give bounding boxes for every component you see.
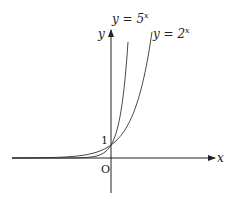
- x-axis-label: x: [217, 151, 224, 165]
- origin-label: O: [101, 163, 110, 176]
- intercept-label: 1: [101, 134, 108, 147]
- curve-2x: [12, 32, 152, 158]
- svg-text:y = 5x: y = 5x: [111, 11, 149, 26]
- svg-text:y = 2x: y = 2x: [152, 26, 190, 41]
- y-axis-label: y: [97, 27, 105, 41]
- curve-2x-label: y = 2x: [152, 26, 190, 41]
- exponential-graph: x y O 1 y = 5x y = 2x: [0, 0, 233, 201]
- curve-5x-label: y = 5x: [111, 11, 149, 26]
